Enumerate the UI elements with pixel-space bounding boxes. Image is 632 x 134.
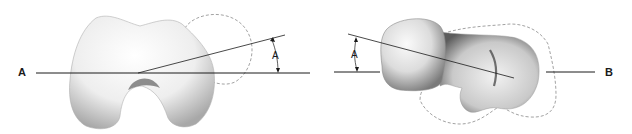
femoral-neck (440, 32, 539, 112)
axis-label-a: A (18, 67, 26, 78)
arrow-head-top-right (354, 37, 358, 42)
arrow-head-bottom-right (355, 67, 359, 72)
anatomy-diagram (0, 0, 632, 134)
distal-femur-bone (70, 16, 215, 129)
axial-femur-view (334, 19, 595, 124)
axis-label-b: B (605, 67, 613, 78)
femoral-head (381, 19, 446, 91)
distal-femur-view (36, 14, 310, 128)
arrow-head-bottom (276, 68, 280, 73)
angle-label-right: A (351, 50, 358, 60)
angle-label-left: A (272, 51, 279, 61)
